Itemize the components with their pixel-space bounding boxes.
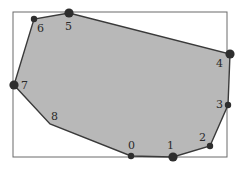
vertex-label-2: 2 bbox=[199, 131, 206, 144]
vertex-point-0 bbox=[128, 153, 134, 159]
vertex-label-7: 7 bbox=[21, 79, 28, 92]
vertex-point-1 bbox=[168, 152, 177, 161]
vertex-label-4: 4 bbox=[216, 57, 223, 70]
vertex-label-0: 0 bbox=[128, 139, 135, 152]
vertex-label-8: 8 bbox=[51, 110, 58, 123]
convex-polygon bbox=[14, 13, 230, 157]
vertex-point-3 bbox=[225, 102, 231, 108]
vertex-point-4 bbox=[225, 49, 234, 58]
vertex-point-5 bbox=[64, 8, 73, 17]
vertex-point-7 bbox=[9, 80, 18, 89]
vertex-label-1: 1 bbox=[167, 139, 174, 152]
polygon-diagram: 012345678 bbox=[0, 0, 243, 171]
vertex-label-6: 6 bbox=[37, 22, 44, 35]
vertex-label-3: 3 bbox=[216, 98, 223, 111]
vertex-label-5: 5 bbox=[65, 20, 72, 33]
vertex-point-2 bbox=[207, 143, 213, 149]
